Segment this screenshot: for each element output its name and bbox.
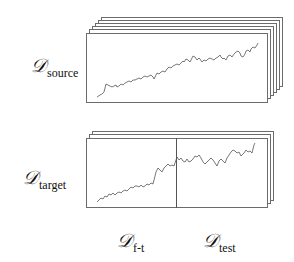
source-label-sub: source — [47, 66, 78, 80]
finetune-split-label: 𝒟f-t — [117, 231, 144, 250]
target-label-sub: target — [39, 178, 66, 192]
diagram-canvas — [0, 0, 294, 262]
finetune-label-sub: f-t — [133, 241, 144, 255]
source-stack — [87, 18, 283, 103]
source-dataset-label: 𝒟source — [31, 56, 78, 75]
finetune-label-main: 𝒟 — [117, 229, 132, 251]
test-label-main: 𝒟 — [203, 229, 218, 251]
source-label-main: 𝒟 — [31, 54, 46, 76]
test-split-label: 𝒟test — [203, 231, 236, 250]
target-stack — [87, 132, 274, 208]
test-label-sub: test — [219, 241, 236, 255]
target-label-main: 𝒟 — [23, 166, 38, 188]
target-dataset-label: 𝒟target — [23, 168, 66, 187]
source-frame-front — [87, 34, 268, 103]
